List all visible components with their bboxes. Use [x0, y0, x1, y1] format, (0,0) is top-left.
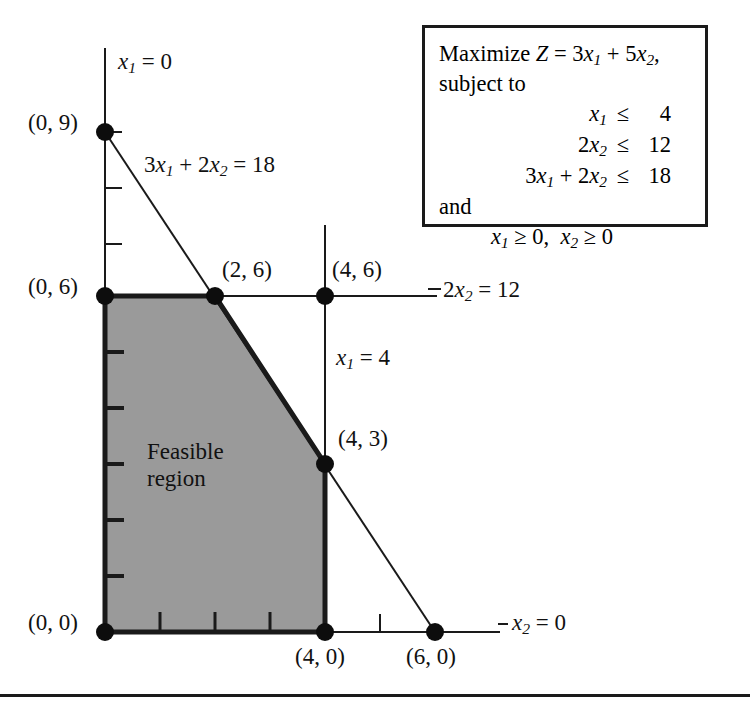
- dot-point-4-6: [316, 287, 334, 305]
- objective-x2-subscript: 2: [646, 51, 654, 68]
- point-label-2-6: (2, 6): [222, 258, 272, 282]
- line-label-2x2-eq-12: 2x2 = 12: [443, 278, 520, 305]
- axis-label-x1-eq-0: x1 = 0: [118, 50, 172, 77]
- point-label-0-6: (0, 6): [28, 275, 78, 299]
- axis-label-x2-eq-0: x2 = 0: [512, 611, 566, 638]
- dot-point-4-3: [316, 455, 334, 473]
- subject-to-label: subject to: [439, 70, 695, 99]
- constraint-row-1-rhs: 4: [633, 99, 671, 130]
- constraint-row-2: 2x2 ≤ 12: [439, 130, 695, 161]
- point-label-0-0: (0, 0): [28, 611, 78, 635]
- constraint-box-inner: Maximize Z = 3x1 + 5x2, subject to x1 ≤ …: [425, 28, 705, 224]
- constraint-row-3-rhs: 18: [633, 161, 671, 192]
- point-label-6-0: (6, 0): [406, 645, 456, 669]
- objective-z: Z: [536, 41, 549, 66]
- constraint-rows: x1 ≤ 4 2x2 ≤ 12 3x1 + 2x2 ≤ 18: [439, 99, 695, 192]
- point-label-4-0: (4, 0): [295, 645, 345, 669]
- constraint-box: Maximize Z = 3x1 + 5x2, subject to x1 ≤ …: [422, 25, 708, 227]
- constraint-row-2-relation: ≤: [613, 130, 633, 161]
- dot-point-4-0: [316, 623, 334, 641]
- y-axis-ticks-thin: [105, 132, 122, 244]
- dot-point-0-6: [96, 287, 114, 305]
- constraint-row-1-relation: ≤: [613, 99, 633, 130]
- and-label: and: [439, 193, 695, 222]
- page-bottom-divider: [0, 694, 750, 697]
- dot-point-0-9: [96, 123, 114, 141]
- feasible-region-label-line1: Feasible: [147, 439, 224, 464]
- point-label-4-6: (4, 6): [332, 258, 382, 282]
- objective-comma: ,: [654, 41, 660, 66]
- line-label-x1-eq-4: x1 = 4: [336, 346, 390, 373]
- dot-point-6-0: [426, 623, 444, 641]
- objective-eq: = 3: [548, 41, 583, 66]
- objective-prefix: Maximize: [439, 41, 536, 66]
- constraint-row-2-lhs: 2x2: [439, 130, 613, 161]
- nonnegativity-constraints: x1 ≥ 0, x2 ≥ 0: [491, 223, 695, 253]
- point-label-0-9: (0, 9): [28, 111, 78, 135]
- constraint-row-3-relation: ≤: [613, 161, 633, 192]
- point-label-4-3: (4, 3): [338, 427, 388, 451]
- figure-page: x1 = 0 (0, 9) 3x1 + 2x2 = 18 (0, 6) (2, …: [0, 0, 750, 704]
- constraint-row-1-lhs: x1: [439, 99, 613, 130]
- feasible-region-label-line2: region: [147, 466, 206, 491]
- constraint-row-3-lhs: 3x1 + 2x2: [439, 161, 613, 192]
- line-label-3x1-2x2-eq-18: 3x1 + 2x2 = 18: [144, 153, 275, 180]
- objective-function-line: Maximize Z = 3x1 + 5x2,: [439, 40, 695, 70]
- objective-x2: x: [636, 41, 646, 66]
- constraint-row-1: x1 ≤ 4: [439, 99, 695, 130]
- objective-plus: + 5: [601, 41, 636, 66]
- dot-point-2-6: [206, 287, 224, 305]
- dot-point-0-0: [96, 623, 114, 641]
- constraint-row-2-rhs: 12: [633, 130, 671, 161]
- objective-x1: x: [584, 41, 594, 66]
- feasible-region-label: Feasible region: [147, 438, 224, 492]
- constraint-row-3: 3x1 + 2x2 ≤ 18: [439, 161, 695, 192]
